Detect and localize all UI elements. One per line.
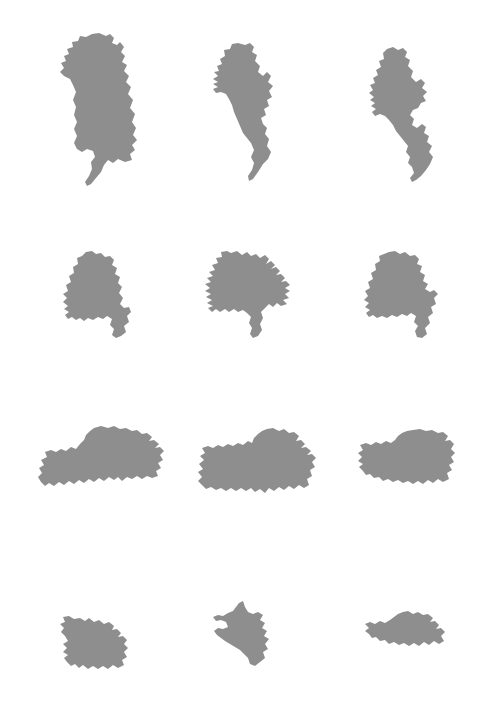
- shape-r3c1: [36, 425, 166, 493]
- shape-r1c2-path: [213, 43, 273, 181]
- shape-r2c2: [203, 250, 298, 340]
- shape-r4c3-svg: [363, 610, 451, 655]
- shape-r4c1: [58, 615, 136, 671]
- shape-r4c3-path: [365, 611, 445, 646]
- shape-r4c1-svg: [58, 615, 136, 671]
- shape-r4c3: [363, 610, 451, 655]
- shape-r3c3-svg: [355, 428, 458, 491]
- shape-r2c1-svg: [60, 250, 132, 340]
- shape-r1c2-svg: [207, 42, 289, 182]
- shape-r2c3-svg: [362, 250, 442, 340]
- shape-r1c3-path: [369, 47, 433, 182]
- figure-canvas: [0, 0, 487, 711]
- shape-r3c1-svg: [36, 425, 166, 493]
- shape-r3c2-svg: [195, 427, 318, 499]
- shape-r4c2: [212, 600, 272, 668]
- shape-r2c3: [362, 250, 442, 340]
- shape-r3c3: [355, 428, 458, 491]
- shape-r2c1: [60, 250, 132, 340]
- shape-r1c2: [207, 42, 289, 182]
- shape-r4c2-path: [213, 601, 269, 666]
- shape-r1c3: [360, 46, 446, 183]
- shape-r1c1-svg: [58, 32, 146, 187]
- shape-r4c1-path: [60, 616, 128, 669]
- shape-r4c2-svg: [212, 600, 272, 668]
- shape-r3c1-path: [38, 426, 164, 486]
- shape-r2c2-svg: [203, 250, 298, 340]
- shape-r3c2: [195, 427, 318, 499]
- shape-r3c3-path: [358, 429, 455, 484]
- shape-r3c2-path: [198, 428, 316, 493]
- shape-r2c1-path: [63, 251, 131, 338]
- shape-r2c3-path: [364, 251, 438, 338]
- shape-r1c1-path: [60, 33, 137, 186]
- shape-r1c3-svg: [360, 46, 446, 183]
- shape-r1c1: [58, 32, 146, 187]
- shape-r2c2-path: [205, 251, 290, 338]
